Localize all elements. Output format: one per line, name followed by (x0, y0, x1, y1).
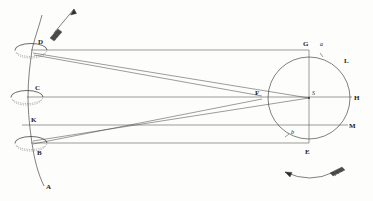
ray-b-to-f (33, 99, 262, 144)
aperture-bottom-ellipse-hidden (15, 143, 47, 150)
label-h: H (354, 94, 360, 102)
rotation-arrow-curve (285, 172, 334, 178)
label-b-small: b (291, 129, 294, 135)
label-a-small: a (320, 41, 323, 47)
ray-d-to-s (33, 53, 309, 98)
axis-line-dc (28, 50, 32, 97)
figure-root: D C K B A G a L S H M b E F (0, 0, 373, 201)
tick-near-b (285, 134, 289, 137)
circle-group (268, 50, 350, 143)
rotation-arrow-group (285, 167, 345, 178)
motion-arrow-shaft (54, 9, 74, 33)
label-e: E (305, 148, 310, 156)
motion-arrow-top-group (50, 9, 77, 41)
point-markers-group (308, 97, 310, 99)
label-s-center: S (312, 90, 315, 96)
point-s-marker (308, 97, 310, 99)
rotation-arrow-tail-fletching (330, 167, 345, 176)
optical-diagram-svg: D C K B A G a L S H M b E F (0, 0, 373, 201)
aperture-middle-ellipse-hidden (11, 97, 43, 104)
label-a: A (46, 183, 51, 191)
aperture-middle-group (11, 91, 43, 105)
label-d: D (38, 38, 43, 46)
horizontal-rays-group (22, 50, 352, 143)
converging-rays-group (33, 53, 309, 144)
label-g: G (303, 40, 309, 48)
label-f: F (255, 89, 259, 97)
tick-near-a (320, 53, 323, 57)
label-b: B (37, 149, 42, 157)
aperture-middle-shadow (13, 100, 41, 105)
ray-b-to-s (33, 98, 309, 141)
ray-d-to-f (34, 55, 262, 96)
label-k: K (31, 116, 37, 124)
label-c: C (35, 84, 40, 92)
label-m: M (349, 122, 356, 130)
label-l: L (344, 57, 349, 65)
rotation-arrow-head (285, 172, 292, 177)
aperture-bottom-group (15, 137, 47, 152)
